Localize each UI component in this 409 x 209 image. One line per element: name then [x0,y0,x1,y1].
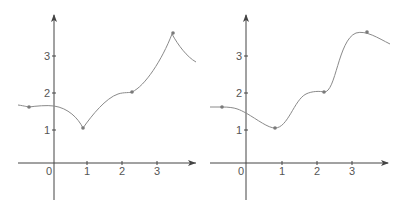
left-point-2 [81,126,85,130]
charts-svg: 0 1 2 3 1 2 3 [0,0,409,209]
right-point-3 [322,90,326,94]
left-x-label-1: 1 [84,165,90,177]
left-y-label-1: 1 [44,124,50,136]
left-y-label-2: 2 [44,87,50,99]
right-chart: 0 1 2 3 1 2 3 [210,14,390,200]
left-curve [18,34,196,128]
right-x-label-0: 0 [238,165,244,177]
left-point-3 [130,90,134,94]
right-point-4 [365,30,369,34]
right-y-label-3: 3 [236,50,242,62]
left-point-4 [171,31,175,35]
right-point-1 [220,105,224,109]
left-x-label-2: 2 [119,165,125,177]
right-y-label-1: 1 [236,124,242,136]
left-x-label-0: 0 [46,165,52,177]
left-y-label-3: 3 [44,50,50,62]
right-x-label-2: 2 [314,165,320,177]
left-x-label-3: 3 [154,165,160,177]
left-chart: 0 1 2 3 1 2 3 [18,14,196,200]
chart-canvas: 0 1 2 3 1 2 3 [0,0,409,209]
right-point-2 [273,126,277,130]
right-x-label-1: 1 [279,165,285,177]
left-point-1 [27,105,31,109]
right-x-label-3: 3 [349,165,355,177]
right-y-label-2: 2 [236,87,242,99]
right-curve [210,32,390,128]
